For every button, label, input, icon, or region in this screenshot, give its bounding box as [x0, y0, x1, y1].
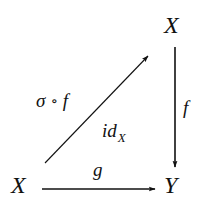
id-subscript: X	[118, 130, 126, 145]
label-f-text: f	[183, 97, 188, 118]
f-symbol: f	[63, 90, 68, 111]
node-x-bottom-left-label: X	[11, 172, 26, 198]
commutative-diagram: X X Y f g σ∘f idX	[0, 0, 206, 206]
sigma-symbol: σ	[36, 90, 45, 111]
label-f: f	[183, 98, 188, 117]
node-y: Y	[164, 173, 177, 197]
label-g-text: g	[93, 159, 103, 180]
label-id-x: idX	[102, 121, 126, 140]
label-g: g	[93, 160, 103, 179]
id-text: id	[102, 120, 117, 141]
node-x-top: X	[164, 13, 179, 37]
node-x-top-label: X	[164, 12, 179, 38]
node-y-label: Y	[164, 172, 177, 198]
node-x-bottom-left: X	[11, 173, 26, 197]
label-sigma-compose-f: σ∘f	[36, 91, 68, 110]
compose-symbol: ∘	[50, 93, 57, 109]
